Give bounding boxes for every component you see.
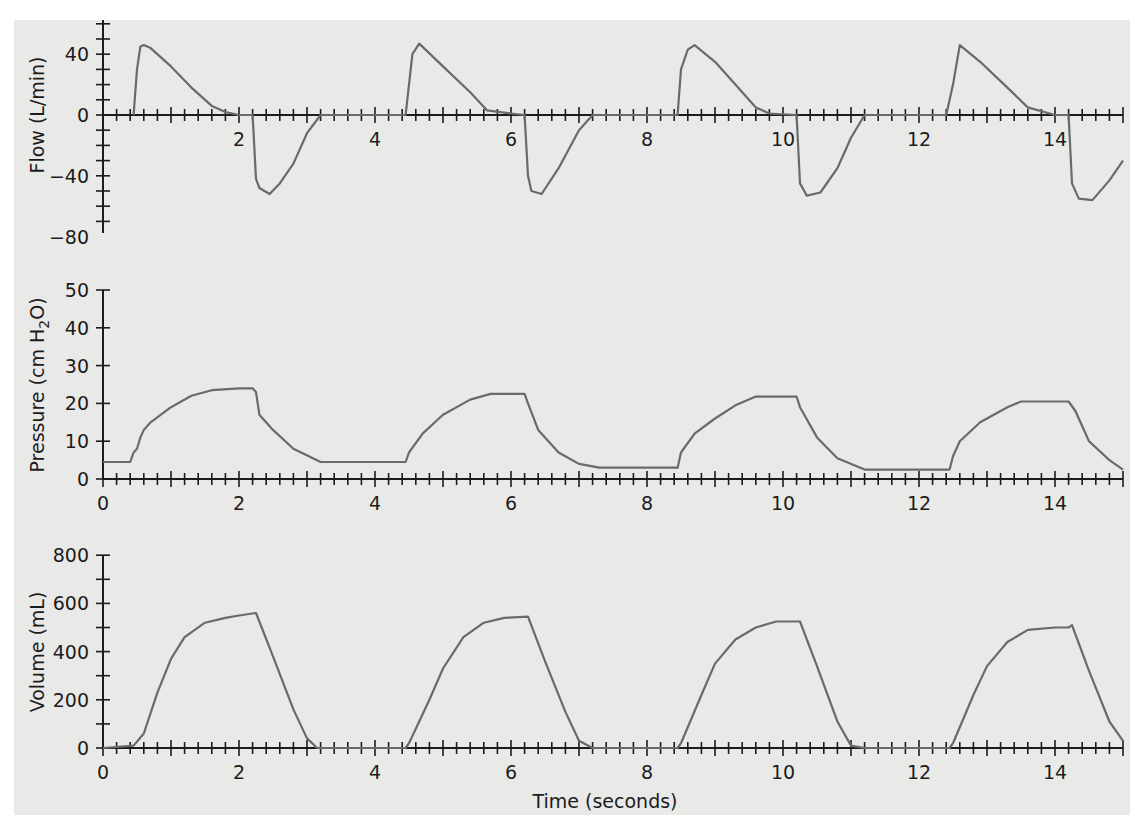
pressure-y-tick-label: 0 xyxy=(77,468,89,490)
pressure-chart: 0102030405002468101214 xyxy=(65,279,1123,514)
flow-x-tick-label: 4 xyxy=(369,128,381,150)
volume-y-tick-label: 600 xyxy=(53,592,89,614)
pressure-x-tick-label: 6 xyxy=(505,492,517,514)
pressure-y-tick-label: 50 xyxy=(65,279,89,301)
flow-x-tick-label: 8 xyxy=(641,128,653,150)
pressure-trace xyxy=(103,388,1123,469)
flow-y-tick-label: 0 xyxy=(77,104,89,126)
volume-x-tick-label: 14 xyxy=(1043,761,1067,783)
volume-chart: 020040060080002468101214 xyxy=(53,544,1123,783)
flow-chart: 400−40−802468101214 xyxy=(49,20,1123,248)
volume-x-tick-label: 6 xyxy=(505,761,517,783)
pressure-x-tick-label: 8 xyxy=(641,492,653,514)
flow-x-tick-label: 14 xyxy=(1043,128,1067,150)
flow-y-tick-label: −80 xyxy=(49,226,89,248)
pressure-y-tick-label: 20 xyxy=(65,392,89,414)
flow-x-tick-label: 2 xyxy=(233,128,245,150)
pressure-y-axis-title: Pressure (cm H2O) xyxy=(26,297,52,472)
volume-x-tick-label: 12 xyxy=(907,761,931,783)
volume-x-tick-label: 4 xyxy=(369,761,381,783)
pressure-y-tick-label: 40 xyxy=(65,317,89,339)
pressure-x-tick-label: 10 xyxy=(771,492,795,514)
pressure-x-tick-label: 0 xyxy=(97,492,109,514)
flow-x-tick-label: 10 xyxy=(771,128,795,150)
volume-y-tick-label: 0 xyxy=(77,737,89,759)
ventilator-waveform-figure: 400−40−802468101214 01020304050024681012… xyxy=(0,0,1135,836)
volume-y-tick-label: 400 xyxy=(53,641,89,663)
flow-trace xyxy=(134,44,1123,201)
pressure-x-tick-label: 14 xyxy=(1043,492,1067,514)
volume-trace xyxy=(103,613,1123,748)
volume-x-tick-label: 0 xyxy=(97,761,109,783)
volume-y-tick-label: 200 xyxy=(53,689,89,711)
pressure-y-tick-label: 30 xyxy=(65,355,89,377)
volume-x-tick-label: 10 xyxy=(771,761,795,783)
pressure-x-tick-label: 4 xyxy=(369,492,381,514)
volume-y-tick-label: 800 xyxy=(53,544,89,566)
pressure-x-tick-label: 12 xyxy=(907,492,931,514)
flow-y-tick-label: 40 xyxy=(65,43,89,65)
flow-y-tick-label: −40 xyxy=(49,165,89,187)
x-axis-title: Time (seconds) xyxy=(531,790,677,812)
pressure-y-tick-label: 10 xyxy=(65,430,89,452)
pressure-x-tick-label: 2 xyxy=(233,492,245,514)
flow-x-tick-label: 12 xyxy=(907,128,931,150)
volume-x-tick-label: 2 xyxy=(233,761,245,783)
volume-y-axis-title: Volume (mL) xyxy=(26,592,48,713)
flow-x-tick-label: 6 xyxy=(505,128,517,150)
volume-x-tick-label: 8 xyxy=(641,761,653,783)
flow-y-axis-title: Flow (L/min) xyxy=(26,56,48,173)
